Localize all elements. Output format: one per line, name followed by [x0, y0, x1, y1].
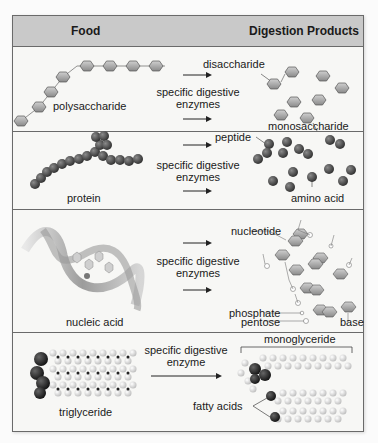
enzyme-text: enzymes	[143, 98, 253, 110]
label-disaccharide: disaccharide	[203, 58, 265, 70]
label-pentose: pentose	[241, 316, 280, 328]
label-fatty-acids: fatty acids	[193, 400, 243, 412]
enzyme-label-1: specific digestive enzymes	[143, 86, 253, 110]
enzyme-text: specific digestive	[143, 255, 253, 267]
label-monosaccharide: monosaccharide	[268, 120, 349, 132]
enzyme-text: enzymes	[143, 171, 253, 183]
row-triglyceride: triglyceride specific digestive enzyme m…	[13, 333, 363, 433]
label-monoglyceride: monoglyceride	[264, 333, 336, 345]
label-polysaccharide: polysaccharide	[53, 100, 126, 112]
label-nucleotide: nucleotide	[231, 225, 281, 237]
label-base: base	[340, 316, 364, 328]
table-header: Food Digestion Products	[13, 16, 363, 47]
digestion-table: Food Digestion Products	[12, 15, 364, 432]
enzyme-text: specific digestive	[143, 159, 253, 171]
enzyme-label-3: specific digestive enzymes	[143, 255, 253, 279]
header-digestion-products: Digestion Products	[249, 24, 359, 38]
label-protein: protein	[67, 192, 101, 204]
enzyme-text: enzymes	[143, 267, 253, 279]
enzyme-label-4: specific digestive enzyme	[131, 344, 241, 368]
enzyme-text: specific digestive	[131, 344, 241, 356]
enzyme-label-2: specific digestive enzymes	[143, 159, 253, 183]
label-triglyceride: triglyceride	[59, 406, 112, 418]
enzyme-text: enzyme	[131, 356, 241, 368]
label-peptide: peptide	[215, 131, 251, 143]
row-protein: protein specific digestive enzymes pepti…	[13, 132, 363, 210]
row-nucleic-acid: nucleic acid specific digestive enzymes …	[13, 210, 363, 333]
header-food: Food	[71, 24, 100, 38]
label-amino-acid: amino acid	[291, 192, 344, 204]
label-nucleic-acid: nucleic acid	[66, 316, 123, 328]
enzyme-text: specific digestive	[143, 86, 253, 98]
row-polysaccharide: polysaccharide specific digestive enzyme…	[13, 47, 363, 132]
